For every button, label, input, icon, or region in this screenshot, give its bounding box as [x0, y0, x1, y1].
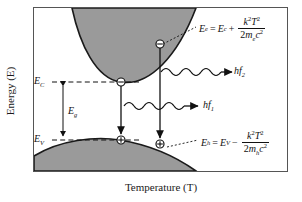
hole-num-t-sup: 2 — [260, 129, 263, 136]
ec-label: EC — [34, 76, 44, 89]
hole-den-m: m — [249, 143, 256, 154]
photon-upper-label-main: hf — [234, 65, 242, 76]
ev-label: EV — [34, 134, 44, 147]
hole-den-c-sup: 2 — [264, 142, 267, 149]
hole-energy-equation: Eh = EV − k2T2 2mhc2 — [201, 130, 269, 157]
electron-eq-equals: = — [210, 24, 216, 34]
x-axis-label: Temperature (T) — [33, 181, 289, 193]
y-axis-label: Energy (E) — [4, 56, 16, 126]
ev-label-sub: V — [40, 139, 44, 146]
hole-eq-denominator: 2mhc2 — [242, 142, 269, 157]
photon-lower-label: hf1 — [203, 100, 214, 113]
photon-lower-label-sub: 1 — [211, 105, 214, 112]
band-diagram-figure: Energy (E) Temperature (T) EC Eg EV hf2 … — [0, 0, 302, 202]
eg-label-sub: g — [74, 111, 77, 118]
hole-eq-term-sub: V — [226, 140, 230, 147]
eg-label: Eg — [68, 106, 77, 119]
hole-marker-left — [117, 136, 125, 144]
electron-eq-fraction: k2T2 2mec2 — [238, 16, 265, 43]
electron-eq-lhs-sub: e — [205, 26, 208, 33]
electron-energy-equation: Ee = Ec + k2T2 2mec2 — [199, 16, 265, 43]
hole-eq-numerator: k2T2 — [245, 130, 266, 142]
hole-eq-lhs-sub: h — [207, 140, 210, 147]
electron-eq-term-sub: c — [224, 26, 227, 33]
electron-marker-right — [156, 40, 164, 48]
ec-label-sub: C — [40, 81, 44, 88]
hole-marker-right — [156, 140, 164, 148]
electron-marker-left — [117, 78, 125, 86]
photon-upper-label-sub: 2 — [242, 71, 245, 78]
hole-eq-operator: − — [232, 138, 238, 148]
hole-eq-fraction: k2T2 2mhc2 — [242, 130, 269, 157]
photon-lower-label-main: hf — [203, 99, 211, 110]
electron-den-c-sup: 2 — [260, 28, 263, 35]
electron-eq-denominator: 2mec2 — [238, 28, 265, 43]
electron-eq-operator: + — [229, 24, 235, 34]
hole-eq-equals: = — [212, 138, 218, 148]
photon-upper-label: hf2 — [234, 66, 245, 79]
electron-eq-numerator: k2T2 — [241, 16, 262, 28]
electron-num-t-sup: 2 — [257, 15, 260, 22]
electron-den-m: m — [245, 29, 252, 40]
